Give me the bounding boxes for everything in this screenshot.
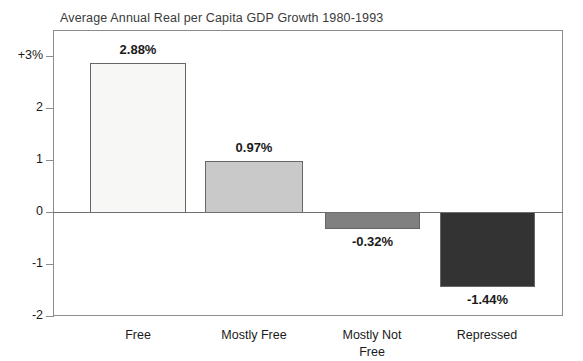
y-tick-mark-neg1 — [46, 264, 54, 265]
y-tick-mark-2 — [46, 108, 54, 109]
bar-repressed — [440, 212, 535, 287]
category-label-free: Free — [88, 327, 188, 344]
category-label-mostly-not-free-line2: Free — [322, 344, 422, 361]
category-label-mostly-free: Mostly Free — [204, 327, 304, 344]
y-tick-label-2: 2 — [0, 100, 43, 114]
y-tick-label-3: +3% — [0, 48, 43, 62]
bar-free — [90, 63, 186, 213]
category-label-repressed-line1: Repressed — [437, 327, 537, 344]
bar-mostly-not-free — [325, 212, 420, 229]
category-label-repressed: Repressed — [437, 327, 537, 344]
zero-baseline — [53, 212, 563, 213]
chart-title: Average Annual Real per Capita GDP Growt… — [60, 11, 383, 25]
y-tick-label-1: 1 — [0, 152, 43, 166]
bar-mostly-free — [205, 161, 303, 213]
y-tick-mark-3 — [46, 56, 54, 57]
value-label-repressed: -1.44% — [440, 292, 535, 307]
y-tick-label-0: 0 — [0, 204, 43, 218]
value-label-free: 2.88% — [90, 42, 186, 57]
y-tick-label-neg1: -1 — [0, 256, 43, 270]
y-tick-mark-1 — [46, 160, 54, 161]
category-label-free-line1: Free — [88, 327, 188, 344]
category-label-mostly-not-free-line1: Mostly Not — [322, 327, 422, 344]
category-label-mostly-not-free: Mostly Not Free — [322, 327, 422, 361]
category-label-mostly-free-line1: Mostly Free — [204, 327, 304, 344]
y-tick-label-neg2: -2 — [0, 308, 43, 322]
y-tick-mark-neg2 — [46, 316, 54, 317]
bar-chart: Average Annual Real per Capita GDP Growt… — [0, 0, 583, 361]
value-label-mostly-free: 0.97% — [205, 140, 303, 155]
value-label-mostly-not-free: -0.32% — [325, 234, 420, 249]
